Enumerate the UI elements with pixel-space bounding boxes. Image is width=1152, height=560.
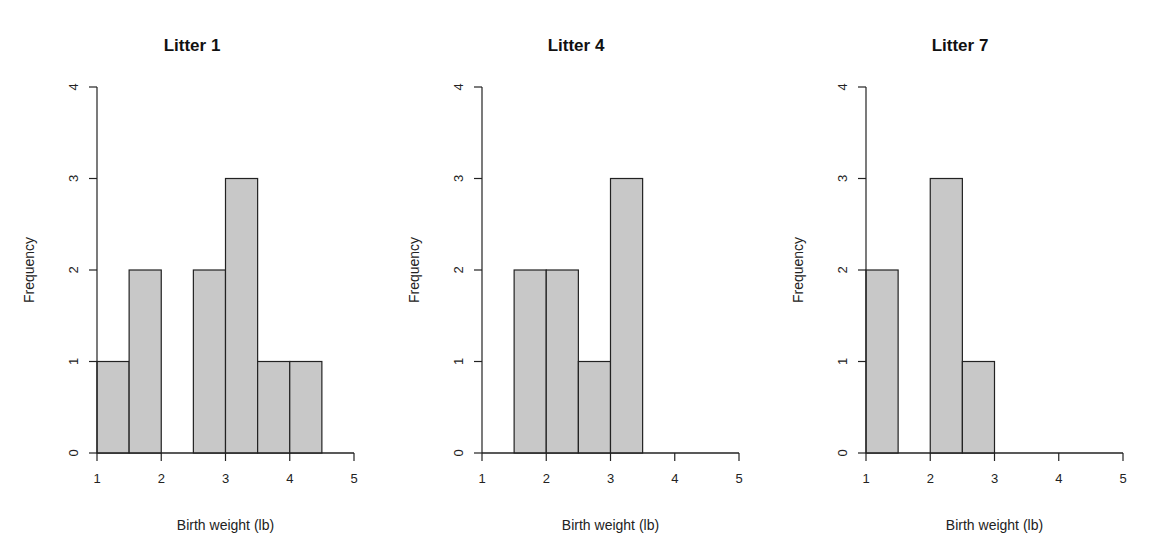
- x-tick-label: 2: [927, 471, 934, 486]
- x-tick-label: 2: [543, 471, 550, 486]
- y-tick-label: 1: [835, 358, 850, 365]
- y-tick-label: 3: [451, 175, 466, 182]
- y-tick-label: 1: [66, 358, 81, 365]
- x-tick-label: 5: [350, 471, 357, 486]
- histogram-bar: [290, 362, 322, 454]
- plot-area: 0123412345Birth weight (lb)Frequency: [384, 0, 768, 560]
- histogram-bar: [962, 362, 994, 454]
- x-axis-label: Birth weight (lb): [562, 517, 659, 533]
- x-tick-label: 3: [222, 471, 229, 486]
- histogram-bar: [193, 270, 225, 453]
- y-tick-label: 0: [66, 449, 81, 456]
- y-axis-label: Frequency: [21, 237, 37, 303]
- histogram-bar: [129, 270, 161, 453]
- y-tick-label: 0: [451, 449, 466, 456]
- x-tick-label: 1: [862, 471, 869, 486]
- y-tick-label: 4: [66, 83, 81, 90]
- y-tick-label: 3: [66, 175, 81, 182]
- x-tick-label: 5: [735, 471, 742, 486]
- y-tick-label: 2: [451, 266, 466, 273]
- x-tick-label: 1: [478, 471, 485, 486]
- histogram-bar: [546, 270, 578, 453]
- y-tick-label: 4: [451, 83, 466, 90]
- histogram-bar: [226, 179, 258, 454]
- y-tick-label: 4: [835, 83, 850, 90]
- y-tick-label: 3: [835, 175, 850, 182]
- histogram-litter-7: Litter 7 0123412345Birth weight (lb)Freq…: [768, 0, 1152, 560]
- histogram-bar: [258, 362, 290, 454]
- x-tick-label: 5: [1119, 471, 1126, 486]
- x-tick-label: 3: [991, 471, 998, 486]
- histogram-bar: [866, 270, 898, 453]
- y-tick-label: 2: [835, 266, 850, 273]
- y-axis-label: Frequency: [790, 237, 806, 303]
- x-tick-label: 3: [607, 471, 614, 486]
- histogram-bar: [97, 362, 129, 454]
- x-tick-label: 4: [286, 471, 293, 486]
- x-tick-label: 1: [93, 471, 100, 486]
- histogram-bar: [514, 270, 546, 453]
- histogram-bar: [611, 179, 643, 454]
- x-tick-label: 4: [671, 471, 678, 486]
- x-tick-label: 4: [1055, 471, 1062, 486]
- histogram-litter-4: Litter 4 0123412345Birth weight (lb)Freq…: [384, 0, 768, 560]
- histogram-bar: [578, 362, 610, 454]
- y-tick-label: 1: [451, 358, 466, 365]
- histogram-litter-1: Litter 1 0123412345Birth weight (lb)Freq…: [0, 0, 384, 560]
- x-axis-label: Birth weight (lb): [946, 517, 1043, 533]
- x-axis-label: Birth weight (lb): [177, 517, 274, 533]
- y-axis-label: Frequency: [406, 237, 422, 303]
- plot-area: 0123412345Birth weight (lb)Frequency: [768, 0, 1152, 560]
- plot-area: 0123412345Birth weight (lb)Frequency: [0, 0, 384, 560]
- histogram-bar: [930, 179, 962, 454]
- x-tick-label: 2: [158, 471, 165, 486]
- y-tick-label: 2: [66, 266, 81, 273]
- y-tick-label: 0: [835, 449, 850, 456]
